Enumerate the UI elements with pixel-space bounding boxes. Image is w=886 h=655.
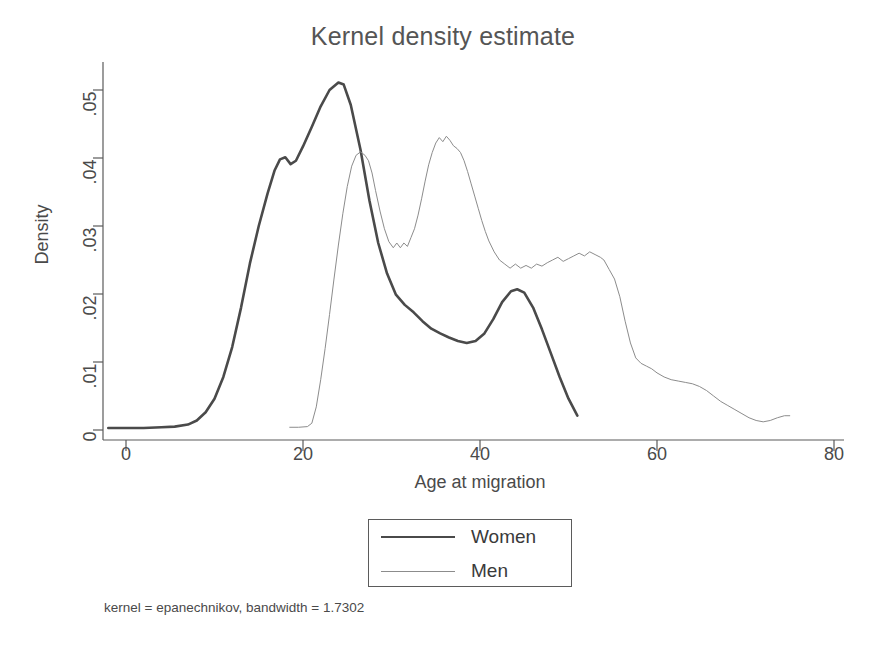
density-curve-women [108, 83, 577, 428]
legend-line-women-icon [381, 536, 455, 538]
legend-label-men: Men [471, 560, 508, 582]
y-tick-label-1: .01 [80, 364, 101, 424]
legend-line-men-icon [381, 571, 455, 572]
y-tick-label-2: .02 [80, 296, 101, 356]
x-tick-label-20: 20 [273, 444, 333, 465]
x-tick-label-40: 40 [450, 444, 510, 465]
x-tick-label-80: 80 [804, 444, 864, 465]
chart-legend: Women Men [368, 519, 572, 587]
kernel-density-figure: Kernel density estimate Density Age at m… [0, 0, 886, 655]
legend-item-men: Men [369, 554, 571, 588]
y-tick-label-3: .03 [80, 228, 101, 288]
y-tick-label-4: .04 [80, 160, 101, 220]
kernel-note: kernel = epanechnikov, bandwidth = 1.730… [104, 600, 364, 615]
y-tick-label-5: .05 [80, 92, 101, 152]
x-axis-label: Age at migration [126, 472, 834, 493]
legend-label-women: Women [471, 526, 536, 548]
x-tick-label-0: 0 [96, 444, 156, 465]
legend-item-women: Women [369, 520, 571, 554]
y-axis-label: Density [32, 155, 53, 315]
x-tick-label-60: 60 [627, 444, 687, 465]
